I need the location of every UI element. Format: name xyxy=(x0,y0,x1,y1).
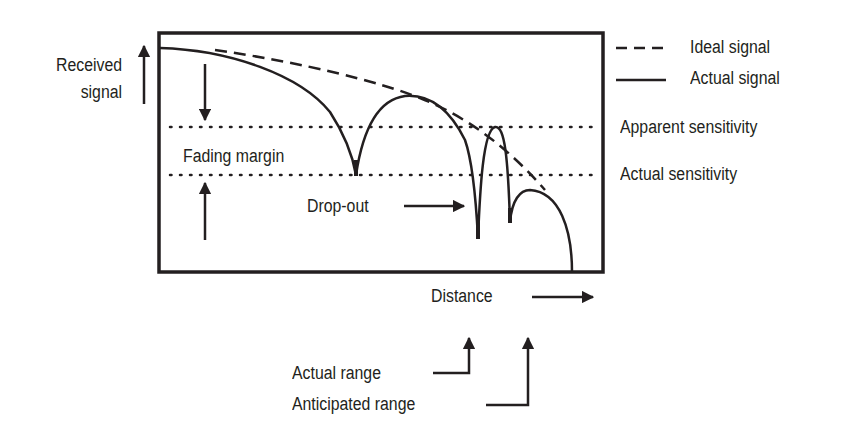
legend-actual-signal-label: Actual signal xyxy=(690,68,780,88)
dropout-tip-3 xyxy=(508,208,512,223)
x-axis-label: Distance xyxy=(431,286,493,306)
anticipated-range-label: Anticipated range xyxy=(292,394,415,414)
drop-out-label: Drop-out xyxy=(307,196,369,216)
apparent-sensitivity-label: Apparent sensitivity xyxy=(620,117,757,137)
diagram-canvas xyxy=(0,0,842,443)
legend-ideal-signal-label: Ideal signal xyxy=(690,37,770,57)
ideal-signal-curve xyxy=(215,50,545,190)
actual-sensitivity-label: Actual sensitivity xyxy=(620,164,737,184)
fading-margin-label: Fading margin xyxy=(183,146,284,166)
y-axis-label-line2: signal xyxy=(81,82,122,102)
dropout-tip-1 xyxy=(354,160,358,176)
actual-range-label: Actual range xyxy=(292,363,381,383)
anticipated-range-arrow-icon xyxy=(486,338,528,405)
y-axis-label-line1: Received xyxy=(56,55,122,75)
dropout-tip-2 xyxy=(476,222,480,239)
actual-range-arrow-icon xyxy=(433,338,469,373)
